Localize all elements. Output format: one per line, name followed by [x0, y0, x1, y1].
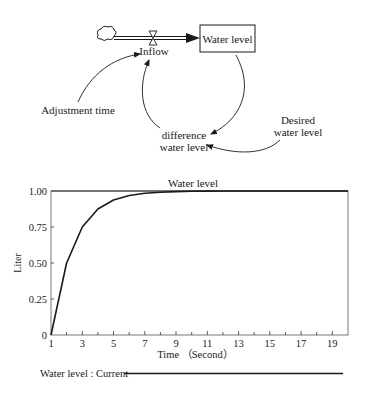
water-level-series-line: [51, 191, 348, 335]
arrow-adjustment-to-inflow: [78, 54, 140, 102]
x-tick-label: 5: [111, 338, 116, 349]
y-tick-label: 1.00: [29, 186, 47, 197]
y-tick-label: 0.50: [29, 258, 47, 269]
x-tick-label: 19: [327, 338, 338, 349]
arrow-desired-to-difference: [207, 140, 280, 152]
y-axis-label: Liter: [12, 253, 23, 273]
difference-label-line2: water level: [160, 141, 209, 153]
flow-arrowhead-icon: [186, 33, 200, 43]
y-tick-label: 0: [42, 330, 47, 341]
x-tick-label: 15: [265, 338, 276, 349]
x-tick-label: 7: [142, 338, 147, 349]
y-axis: 1.00 0.75 0.50 0.25 0 Liter: [12, 186, 54, 341]
x-tick-label: 11: [202, 338, 212, 349]
x-tick-label: 3: [80, 338, 85, 349]
y-tick-label: 0.25: [29, 294, 47, 305]
arrow-difference-to-inflow: [142, 60, 160, 128]
cloud-source-icon: [97, 26, 116, 40]
desired-label-line1: Desired: [281, 114, 316, 126]
desired-label-line2: water level: [274, 126, 323, 138]
x-axis-label: Time （Second）: [157, 349, 232, 360]
stock-flow-diagram: Inflow Water level Adjustment time diffe…: [41, 25, 322, 153]
x-tick-label: 1: [48, 338, 53, 349]
valve-icon: [149, 31, 157, 45]
x-axis: [67, 331, 333, 335]
difference-label-line1: difference: [162, 129, 206, 141]
figure-canvas: Inflow Water level Adjustment time diffe…: [0, 0, 368, 394]
inflow-label: Inflow: [139, 45, 168, 57]
arrow-stock-to-difference: [211, 55, 244, 134]
stock-label: Water level: [202, 33, 252, 45]
legend-label: Water level : Current: [40, 368, 128, 379]
x-tick-label: 17: [296, 338, 307, 349]
y-tick-label: 0.75: [29, 222, 47, 233]
adjustment-time-label: Adjustment time: [41, 104, 115, 116]
water-level-chart: Water level 1.00 0.75 0.50 0.25 0 Liter: [12, 177, 348, 379]
x-tick-label: 9: [173, 338, 178, 349]
x-tick-label: 13: [233, 338, 244, 349]
chart-title: Water level: [168, 177, 218, 189]
